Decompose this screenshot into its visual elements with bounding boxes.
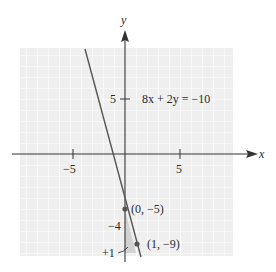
point-label-0-neg5: (0, −5): [131, 202, 164, 216]
equation-label: 8x + 2y = −10: [142, 92, 210, 106]
rise-label: −4: [108, 219, 121, 233]
run-label: +1: [102, 246, 115, 260]
x-axis-label: x: [258, 147, 265, 161]
tick-label-x-5: 5: [176, 162, 182, 176]
point-1-neg9: [134, 241, 139, 246]
tick-label-y-5: 5: [110, 92, 116, 106]
tick-label-x-neg5: −5: [63, 162, 76, 176]
point-label-1-neg9: (1, −9): [147, 237, 180, 251]
y-axis-label: y: [120, 13, 127, 27]
chart: y x −5 5 5 8x + 2y = −10 (0, −5) (1, −9)…: [0, 0, 276, 272]
point-0-neg5: [122, 206, 127, 211]
